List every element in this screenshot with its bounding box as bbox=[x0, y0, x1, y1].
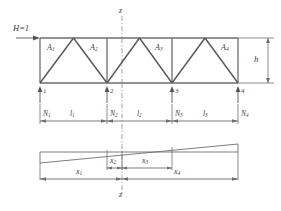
node-number-4: 4 bbox=[241, 88, 245, 95]
span-length-label-3: l3 bbox=[203, 110, 208, 118]
x-dimension-label-2: x2 bbox=[110, 157, 116, 166]
node-number-1: 1 bbox=[43, 88, 47, 95]
span-length-label-1: l1 bbox=[70, 110, 75, 118]
span-arrow-left-2 bbox=[107, 119, 113, 123]
load-label-text: H=1 bbox=[13, 23, 29, 33]
node-force-label-3: N3 bbox=[175, 110, 183, 118]
panel-area-label-2: A2 bbox=[90, 44, 98, 53]
node-force-head-2 bbox=[105, 86, 110, 92]
node-number-2: 2 bbox=[110, 88, 114, 95]
node-force-head-3 bbox=[170, 86, 175, 92]
panel-area-label-4: A4 bbox=[221, 44, 229, 53]
x-dimension-label-1: x1 bbox=[76, 168, 82, 177]
node-force-label-2: N2 bbox=[110, 110, 118, 118]
diagram-vector-layer bbox=[0, 0, 281, 211]
figure-canvas: H=1 z z A1 A2 A3 A4 h 1 2 3 4 N1 N2 N3 N… bbox=[0, 0, 281, 211]
height-arrow-up bbox=[266, 38, 270, 43]
z-axis-label-top: z bbox=[119, 7, 122, 15]
height-label: h bbox=[254, 55, 259, 64]
truss-diagonal-3a bbox=[172, 38, 205, 83]
node-number-3: 3 bbox=[175, 88, 179, 95]
x-dimension-label-3: x3 bbox=[142, 157, 148, 166]
x1-arrow-right bbox=[116, 177, 122, 181]
span-arrow-right-2 bbox=[166, 119, 172, 123]
x2-arrow-right bbox=[117, 166, 122, 169]
x2-arrow-left bbox=[107, 166, 112, 169]
truss-diagonal-1a bbox=[40, 38, 74, 83]
x1-arrow-left bbox=[40, 177, 46, 181]
truss-diagonal-2a bbox=[107, 38, 140, 83]
span-arrow-left-1 bbox=[40, 119, 46, 123]
x4-arrow-right bbox=[232, 177, 238, 181]
wedge-sloping-chord bbox=[40, 144, 238, 163]
load-label: H=1 bbox=[13, 24, 29, 33]
span-length-label-2: l2 bbox=[137, 110, 142, 118]
node-force-label-1: N1 bbox=[43, 110, 51, 118]
node-force-label-4: N4 bbox=[241, 110, 249, 118]
x3-arrow-left bbox=[122, 166, 127, 169]
x4-arrow-left bbox=[122, 177, 128, 181]
span-arrow-right-3 bbox=[232, 119, 238, 123]
x3-arrow-right bbox=[167, 166, 172, 169]
span-arrow-left-3 bbox=[172, 119, 178, 123]
z-axis-label-bottom: z bbox=[119, 191, 122, 199]
span-arrow-right-1 bbox=[101, 119, 107, 123]
load-arrow-head bbox=[33, 35, 40, 40]
node-force-head-4 bbox=[236, 86, 241, 92]
height-arrow-down bbox=[266, 78, 270, 83]
x-dimension-label-4: x4 bbox=[174, 168, 180, 177]
panel-area-label-3: A3 bbox=[155, 44, 163, 53]
panel-area-label-1: A1 bbox=[47, 44, 55, 53]
node-force-head-1 bbox=[38, 86, 43, 92]
